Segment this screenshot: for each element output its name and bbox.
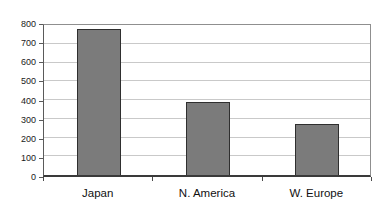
y-axis-tick — [39, 62, 43, 63]
y-axis-label: 600 — [6, 58, 36, 67]
x-axis-label: N. America — [152, 186, 261, 200]
bar-chart: 0100200300400500600700800 JapanN. Americ… — [0, 0, 384, 217]
y-axis-label: 200 — [6, 134, 36, 143]
y-axis-label: 100 — [6, 153, 36, 162]
y-axis-tick — [39, 158, 43, 159]
y-axis-tick — [39, 43, 43, 44]
y-axis-tick — [39, 139, 43, 140]
x-axis-tick — [371, 177, 372, 181]
y-axis-label: 500 — [6, 77, 36, 86]
bar — [77, 29, 121, 175]
x-axis-tick — [43, 177, 44, 181]
x-axis-label: W. Europe — [262, 186, 371, 200]
y-axis-tick — [39, 81, 43, 82]
y-axis-label: 300 — [6, 115, 36, 124]
x-axis-label: Japan — [43, 186, 152, 200]
x-axis-tick — [152, 177, 153, 181]
y-axis-label: 700 — [6, 39, 36, 48]
bar — [186, 102, 230, 175]
plot-area — [43, 24, 371, 177]
y-axis-tick — [39, 24, 43, 25]
y-axis-label: 800 — [6, 20, 36, 29]
bar — [295, 124, 339, 175]
y-axis-tick — [39, 120, 43, 121]
x-axis-tick — [262, 177, 263, 181]
y-axis-label: 400 — [6, 96, 36, 105]
y-axis-label: 0 — [6, 173, 36, 182]
y-axis-tick — [39, 101, 43, 102]
